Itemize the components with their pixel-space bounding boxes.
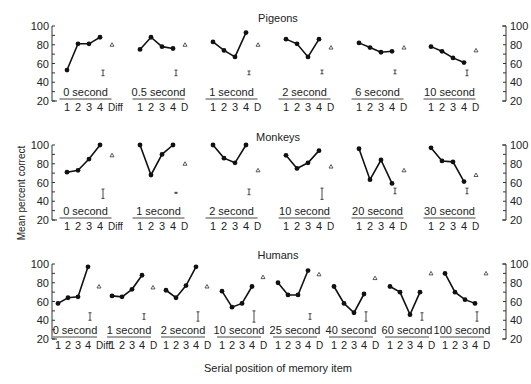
- x-tick-label: D: [254, 221, 261, 232]
- diff-triangle-icon: [402, 46, 406, 50]
- x-tick-label: 4: [316, 101, 322, 113]
- x-tick-label: 1: [283, 101, 289, 113]
- data-point: [138, 47, 143, 52]
- error-bar: [89, 313, 92, 321]
- data-point: [171, 46, 176, 51]
- x-tick-label: 1: [210, 220, 216, 232]
- data-point: [408, 312, 413, 317]
- diff-triangle-icon: [205, 285, 209, 289]
- data-point: [317, 148, 322, 153]
- x-tick-label: 2: [397, 339, 403, 351]
- accuracy-line: [140, 145, 173, 175]
- x-tick-label: 4: [389, 220, 395, 232]
- delay-label: 25 second: [270, 324, 321, 336]
- y-tick-label: 100: [31, 258, 49, 270]
- subplot-0-second: 0 second1234Diff: [60, 143, 124, 232]
- delay-label: 1 second: [136, 205, 181, 217]
- data-point: [164, 288, 169, 293]
- x-tick-label: 2: [148, 101, 154, 113]
- data-point: [211, 143, 216, 148]
- data-point: [222, 156, 227, 161]
- data-point: [140, 273, 145, 278]
- accuracy-line: [445, 273, 475, 303]
- y-tick-label: 40: [37, 76, 49, 88]
- y-tick-label: 20: [37, 333, 49, 345]
- y-tick-label: 80: [37, 39, 49, 51]
- x-tick-label: 2: [285, 339, 291, 351]
- diff-triangle-icon: [402, 168, 406, 172]
- x-tick-label: 4: [139, 339, 145, 351]
- data-point: [233, 160, 238, 165]
- diff-triangle-icon: [256, 168, 260, 172]
- x-tick-label: 3: [407, 339, 413, 351]
- x-tick-label: 3: [378, 220, 384, 232]
- x-tick-label: 3: [239, 339, 245, 351]
- x-tick-label: 4: [193, 339, 199, 351]
- delay-label: 10 second: [214, 324, 265, 336]
- subplot-60-second: 60 second1234D: [382, 271, 436, 351]
- y-tick-label: 100: [510, 258, 528, 270]
- error-bar: [394, 70, 397, 74]
- x-tick-label: D: [400, 102, 407, 113]
- error-bar: [175, 192, 178, 193]
- data-point: [76, 168, 81, 173]
- x-tick-label: 1: [283, 220, 289, 232]
- error-bar: [466, 70, 469, 76]
- x-tick-label: 4: [85, 339, 91, 351]
- x-tick-label: 4: [305, 339, 311, 351]
- subplot-10-second: 10 second1234D: [424, 44, 480, 113]
- y-tick-label: 20: [510, 214, 522, 226]
- diff-triangle-icon: [329, 165, 333, 169]
- y-tick-label: 80: [37, 277, 49, 289]
- accuracy-line: [359, 149, 392, 184]
- accuracy-line: [286, 151, 319, 169]
- subplot-100-second: 100 second1234D: [434, 271, 491, 351]
- x-tick-label: D: [181, 102, 188, 113]
- data-point: [244, 143, 249, 148]
- y-tick-label: 40: [37, 195, 49, 207]
- subplot-25-second: 25 second1234D: [270, 268, 324, 351]
- x-tick-label: 2: [229, 339, 235, 351]
- x-tick-label: 2: [367, 220, 373, 232]
- x-tick-label: 4: [243, 101, 249, 113]
- subplot-6-second: 6 second1234D: [352, 40, 408, 113]
- accuracy-line: [359, 43, 392, 52]
- y-axis-label: Mean percent correct: [16, 146, 27, 241]
- x-tick-label: D: [483, 340, 490, 351]
- diff-triangle-icon: [110, 153, 114, 157]
- data-point: [120, 294, 125, 299]
- delay-label: 40 second: [326, 324, 377, 336]
- x-tick-label: 2: [439, 101, 445, 113]
- data-point: [306, 55, 311, 60]
- panels: Pigeons20204040606080801001000 second123…: [31, 12, 529, 351]
- delay-label: 30 second: [424, 205, 475, 217]
- x-tick-label: 2: [75, 101, 81, 113]
- x-tick-label: 4: [461, 101, 467, 113]
- y-tick-label: 20: [37, 214, 49, 226]
- data-point: [418, 290, 423, 295]
- y-tick-label: 100: [31, 139, 49, 151]
- data-point: [473, 301, 478, 306]
- x-tick-label: 3: [305, 101, 311, 113]
- data-point: [463, 297, 468, 302]
- subplot-2-second: 2 second1234D: [161, 264, 212, 351]
- delay-label: 0.5 second: [132, 86, 186, 98]
- x-tick-label: 1: [64, 101, 70, 113]
- y-tick-label: 20: [37, 95, 49, 107]
- x-tick-label: 2: [65, 339, 71, 351]
- data-point: [184, 283, 189, 288]
- x-tick-label: 4: [97, 220, 103, 232]
- x-tick-label: 3: [75, 339, 81, 351]
- diff-triangle-icon: [474, 173, 478, 177]
- data-point: [317, 37, 322, 42]
- accuracy-line: [67, 37, 100, 70]
- data-point: [98, 143, 103, 148]
- x-tick-label: 2: [452, 339, 458, 351]
- x-tick-label: D: [316, 340, 323, 351]
- x-tick-label: 2: [439, 220, 445, 232]
- data-point: [230, 305, 235, 310]
- subplot-2-second: 2 second1234D: [279, 37, 335, 113]
- data-point: [462, 179, 467, 184]
- x-tick-label: 1: [219, 339, 225, 351]
- y-tick-label: 40: [37, 314, 49, 326]
